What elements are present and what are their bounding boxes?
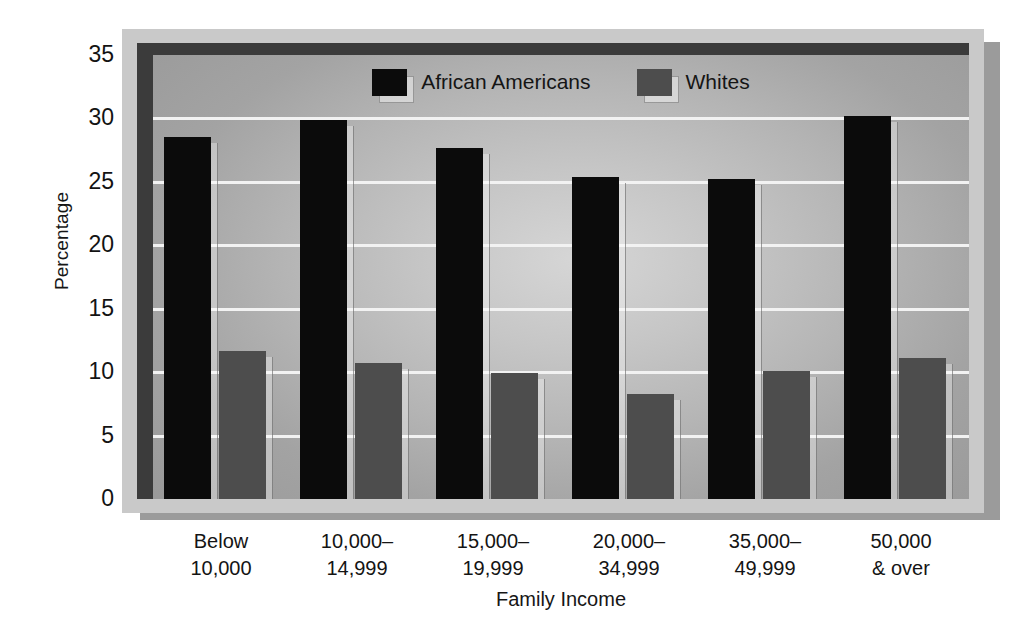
x-tick-line-2: 34,999	[561, 555, 697, 582]
bar-group	[697, 55, 833, 499]
y-axis-tick-35: 35	[36, 43, 114, 66]
bar[interactable]	[491, 373, 538, 499]
x-tick-line-2: 19,999	[425, 555, 561, 582]
legend-entry[interactable]: Whites	[637, 69, 750, 96]
bar-fill	[572, 177, 619, 499]
bar[interactable]	[844, 116, 891, 499]
y-axis-tick-20: 20	[36, 233, 114, 256]
bar[interactable]	[164, 137, 211, 499]
bars-layer	[153, 55, 969, 499]
x-tick-line-1: 15,000–	[457, 530, 529, 552]
legend-swatch-fill	[372, 69, 407, 96]
bar-group	[425, 55, 561, 499]
y-axis-tick-10: 10	[36, 360, 114, 383]
x-tick-line-1: 50,000	[870, 530, 931, 552]
bar-fill	[164, 137, 211, 499]
x-axis-tick-labels: Below10,00010,000–14,99915,000–19,99920,…	[153, 528, 969, 590]
chart-legend: African AmericansWhites	[153, 60, 969, 104]
x-axis-tick-label: 35,000–49,999	[697, 528, 833, 582]
bar-fill	[627, 394, 674, 499]
bar[interactable]	[763, 371, 810, 499]
x-axis-tick-label: 10,000–14,999	[289, 528, 425, 582]
chart-figure: Percentage 35302520151050 African Americ…	[0, 0, 1018, 639]
x-tick-line-2: & over	[833, 555, 969, 582]
legend-label: Whites	[686, 70, 750, 94]
bar-fill	[491, 373, 538, 499]
bar[interactable]	[355, 363, 402, 499]
bar-fill	[436, 148, 483, 499]
bar-group	[833, 55, 969, 499]
x-axis-tick-label: 15,000–19,999	[425, 528, 561, 582]
y-axis-tick-15: 15	[36, 297, 114, 320]
bar-group	[153, 55, 289, 499]
legend-swatch-icon	[372, 69, 407, 96]
bar[interactable]	[708, 179, 755, 499]
bar-group	[289, 55, 425, 499]
x-axis-title: Family Income	[153, 588, 969, 611]
legend-label: African Americans	[421, 70, 590, 94]
y-axis-tick-labels: 35302520151050	[36, 0, 114, 639]
bar[interactable]	[627, 394, 674, 499]
legend-entry[interactable]: African Americans	[372, 69, 590, 96]
y-axis-tick-0: 0	[36, 487, 114, 510]
bar-fill	[899, 358, 946, 499]
x-tick-line-1: 20,000–	[593, 530, 665, 552]
bar-fill	[355, 363, 402, 499]
bar-fill	[763, 371, 810, 499]
x-tick-line-1: 35,000–	[729, 530, 801, 552]
legend-swatch-icon	[637, 69, 672, 96]
y-axis-tick-25: 25	[36, 170, 114, 193]
y-axis-tick-5: 5	[36, 424, 114, 447]
bar[interactable]	[436, 148, 483, 499]
bar[interactable]	[572, 177, 619, 499]
bar[interactable]	[899, 358, 946, 499]
x-axis-tick-label: Below10,000	[153, 528, 289, 582]
bar-fill	[844, 116, 891, 499]
bar-fill	[300, 120, 347, 499]
plot-area: African AmericansWhites	[153, 55, 969, 499]
x-tick-line-2: 49,999	[697, 555, 833, 582]
x-tick-line-1: 10,000–	[321, 530, 393, 552]
legend-swatch-fill	[637, 69, 672, 96]
bar-fill	[708, 179, 755, 499]
x-axis-tick-label: 20,000–34,999	[561, 528, 697, 582]
bar-group	[561, 55, 697, 499]
y-axis-tick-30: 30	[36, 106, 114, 129]
x-tick-line-2: 10,000	[153, 555, 289, 582]
bar[interactable]	[219, 351, 266, 499]
bar[interactable]	[300, 120, 347, 499]
bar-fill	[219, 351, 266, 499]
x-tick-line-2: 14,999	[289, 555, 425, 582]
x-tick-line-1: Below	[194, 530, 248, 552]
x-axis-tick-label: 50,000& over	[833, 528, 969, 582]
